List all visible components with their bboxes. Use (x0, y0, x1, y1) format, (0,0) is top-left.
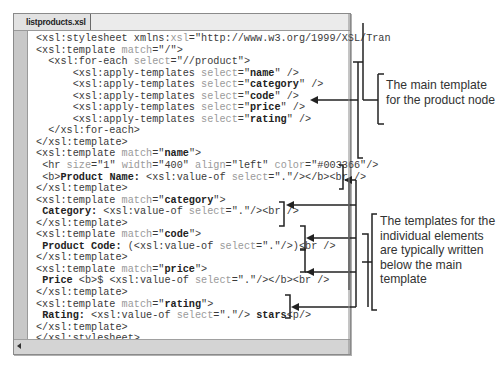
callout-connectors (0, 0, 504, 368)
callout-individual-templates: The templates for the individual element… (380, 214, 504, 287)
callout-main-template: The main template for the product node (386, 78, 501, 107)
